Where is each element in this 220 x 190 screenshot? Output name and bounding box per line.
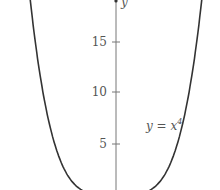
tick-label-10: 10 (92, 85, 107, 99)
tick-label-15: 15 (92, 35, 107, 49)
tick-label-5: 5 (99, 137, 107, 151)
plot-area: y 15 10 5 y = x4 (0, 0, 220, 190)
y-axis-arrow-icon (114, 0, 117, 3)
y-axis-label: y (120, 0, 128, 9)
curve-label: y = x4 (145, 117, 182, 133)
